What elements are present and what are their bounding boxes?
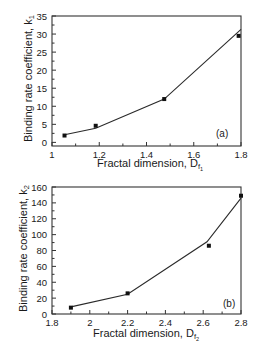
fit-line [65, 29, 242, 134]
panel-a-ticks [52, 16, 241, 146]
figure: 11.21.41.61.805101520253035 (a) Fractal … [0, 0, 260, 351]
y-tick-label: 15 [36, 83, 47, 94]
panel-a-tag: (a) [216, 128, 228, 139]
y-tick-label: 10 [36, 101, 47, 112]
panel-b-y-axis-label: Binding rate coefficient, k2 [17, 185, 31, 312]
x-tick-label: 1.8 [234, 149, 247, 160]
data-point-marker [207, 244, 211, 248]
data-point-marker [237, 34, 241, 38]
y-tick-label: 30 [36, 29, 47, 40]
x-tick-label: 2.8 [234, 317, 247, 328]
panel-b-x-axis-label: Fractal dimension, Df2 [93, 327, 199, 342]
y-tick-label: 5 [42, 119, 47, 130]
y-tick-label: 160 [31, 182, 47, 193]
panel-a-plot: 11.21.41.61.805101520253035 (a) Fractal … [22, 11, 248, 173]
panel-a-frame [52, 16, 241, 146]
panel-b-plot: 1.822.22.42.62.8020406080100120140160 (b… [17, 182, 248, 343]
data-point-marker [239, 194, 243, 198]
y-tick-label: 100 [31, 229, 47, 240]
y-tick-label: 60 [36, 261, 47, 272]
data-point-marker [63, 134, 67, 138]
y-tick-label: 20 [36, 293, 47, 304]
y-tick-label: 40 [36, 277, 47, 288]
panel-b-series [69, 194, 243, 310]
data-point-marker [69, 306, 73, 310]
y-tick-label: 120 [31, 213, 47, 224]
y-tick-label: 0 [42, 309, 47, 320]
y-tick-label: 140 [31, 197, 47, 208]
data-point-marker [126, 291, 130, 295]
panel-b-ticks [52, 187, 241, 314]
y-tick-label: 35 [36, 11, 47, 22]
y-tick-label: 80 [36, 245, 47, 256]
panel-b-tick-labels: 1.822.22.42.62.8020406080100120140160 [31, 182, 247, 329]
x-tick-label: 2.6 [197, 317, 210, 328]
y-tick-label: 20 [36, 65, 47, 76]
data-point-marker [94, 124, 98, 128]
panel-a-y-axis-label: Binding rate coefficient, k1 [22, 15, 36, 142]
y-tick-label: 0 [42, 137, 47, 148]
x-tick-label: 1.8 [45, 317, 58, 328]
y-tick-label: 25 [36, 47, 47, 58]
x-tick-label: 1 [49, 149, 54, 160]
data-point-marker [162, 97, 166, 101]
chart-svg: 11.21.41.61.805101520253035 (a) Fractal … [0, 0, 260, 351]
panel-b-tag: (b) [223, 298, 235, 309]
x-tick-label: 2 [87, 317, 92, 328]
panel-a-series [63, 29, 241, 137]
panel-a-x-axis-label: Fractal dimension, Df1 [97, 157, 203, 172]
fit-line [71, 198, 241, 307]
panel-b-frame [52, 187, 241, 314]
